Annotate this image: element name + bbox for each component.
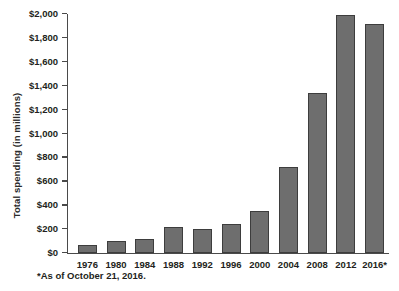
x-tick-label: 1976: [73, 259, 102, 270]
y-tick-mark: [62, 252, 67, 253]
x-tick-label: 2000: [245, 259, 274, 270]
y-tick: $400: [1, 199, 67, 211]
bar: [222, 224, 241, 253]
bar: [336, 15, 355, 253]
x-tick-label: 1996: [217, 259, 246, 270]
y-tick: $0: [1, 247, 67, 259]
y-tick-mark: [62, 37, 67, 38]
y-tick-label: $0: [47, 247, 58, 259]
y-tick-label: $2,000: [29, 8, 58, 20]
x-tick-label: 1992: [188, 259, 217, 270]
y-tick-label: $1,800: [29, 32, 58, 44]
y-tick-mark: [62, 180, 67, 181]
y-tick-label: $1,000: [29, 128, 58, 140]
y-tick-mark: [62, 13, 67, 14]
y-tick: $2,000: [1, 8, 67, 20]
y-tick-mark: [62, 133, 67, 134]
bar: [164, 227, 183, 253]
y-tick: $1,800: [1, 32, 67, 44]
bar-chart-figure: Total spending (in millions) $0$200$400$…: [0, 0, 399, 291]
x-tick-label: 1984: [130, 259, 159, 270]
y-tick: $800: [1, 151, 67, 163]
bar: [308, 93, 327, 253]
x-tick-label: 2012: [332, 259, 361, 270]
y-axis-line: [67, 14, 68, 253]
y-tick-label: $200: [37, 223, 58, 235]
y-tick-label: $1,600: [29, 56, 58, 68]
y-tick-mark: [62, 61, 67, 62]
y-tick-mark: [62, 156, 67, 157]
x-axis-line: [67, 253, 389, 254]
y-tick: $200: [1, 223, 67, 235]
bar: [135, 239, 154, 253]
y-tick-label: $1,400: [29, 80, 58, 92]
x-tick-label: 1980: [102, 259, 131, 270]
footnote: *As of October 21, 2016.: [37, 270, 146, 281]
bar: [107, 241, 126, 253]
y-tick-label: $800: [37, 151, 58, 163]
y-tick: $600: [1, 175, 67, 187]
bar: [365, 24, 384, 253]
y-tick: $1,000: [1, 128, 67, 140]
plot-area: $0$200$400$600$800$1,000$1,200$1,400$1,6…: [67, 14, 389, 253]
bar: [279, 167, 298, 253]
y-tick: $1,400: [1, 80, 67, 92]
y-tick-label: $600: [37, 175, 58, 187]
bar: [250, 211, 269, 253]
y-tick-mark: [62, 85, 67, 86]
x-tick-label: 1988: [159, 259, 188, 270]
bar: [193, 229, 212, 253]
x-tick-label: 2008: [303, 259, 332, 270]
y-tick-mark: [62, 228, 67, 229]
y-tick-mark: [62, 109, 67, 110]
bar: [78, 245, 97, 253]
y-tick-label: $400: [37, 199, 58, 211]
y-tick: $1,600: [1, 56, 67, 68]
x-tick-label: 2004: [274, 259, 303, 270]
y-tick-label: $1,200: [29, 104, 58, 116]
y-tick-mark: [62, 204, 67, 205]
partial-title-strip: [60, 0, 390, 7]
y-tick: $1,200: [1, 104, 67, 116]
x-tick-label: 2016*: [360, 259, 389, 270]
